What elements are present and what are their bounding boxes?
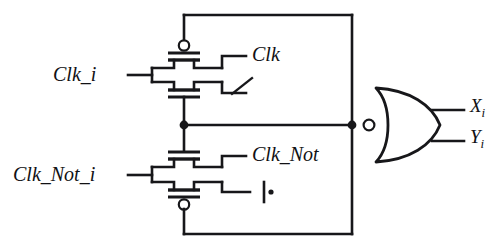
output-x-label: Xi <box>469 95 486 120</box>
nor-gate-inverting-bubble-icon <box>364 120 375 131</box>
slash-annotation-icon <box>232 78 252 94</box>
clk-i-label: Clk_i <box>53 63 96 85</box>
nor-gate-body <box>376 88 440 162</box>
upper-pmos-bubble-icon <box>179 40 189 50</box>
clk-not-label: Clk_Not <box>252 143 319 165</box>
lower-nmos-control-wire <box>222 182 250 192</box>
output-y-label: Yi <box>470 126 485 151</box>
clk-control-wire <box>222 56 246 68</box>
clk-not-i-label: Clk_Not_i <box>13 163 95 185</box>
clk-label: Clk <box>252 43 281 65</box>
circuit-schematic: Clk_i Clk Clk_Not_i Clk_Not Xi Yi <box>0 0 496 250</box>
nor-output-junction-dot <box>348 121 357 130</box>
clk-not-control-wire <box>222 156 246 167</box>
center-junction-dot <box>180 121 189 130</box>
schematic-canvas: Clk_i Clk Clk_Not_i Clk_Not Xi Yi <box>0 0 496 250</box>
ground-dot-icon <box>268 189 273 194</box>
